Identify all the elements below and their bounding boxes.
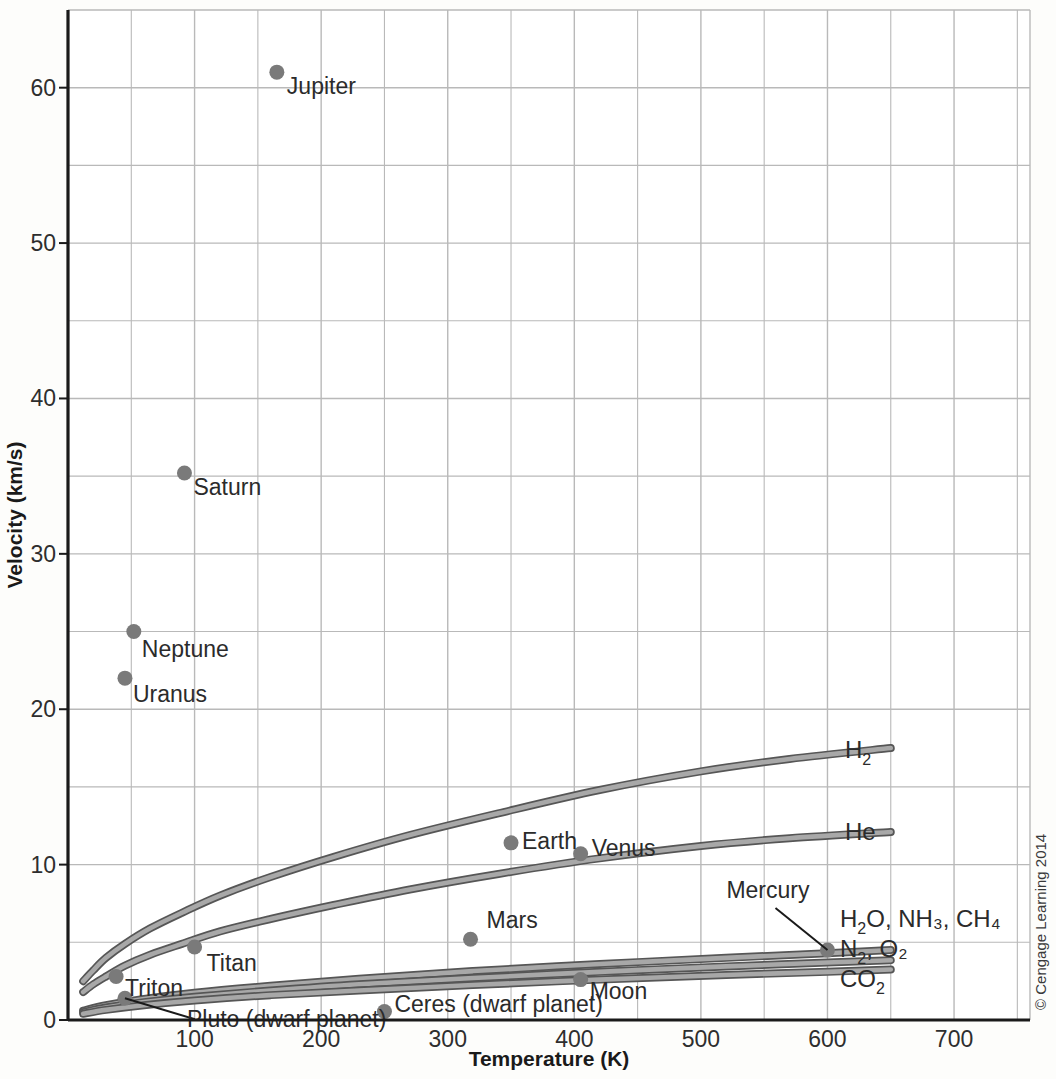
point-label-triton: Triton (125, 975, 183, 1001)
data-point-moon (573, 972, 588, 987)
data-point-uranus (117, 671, 132, 686)
copyright-credit: © Cengage Learning 2014 (1032, 834, 1049, 1010)
y-tick-label: 0 (43, 1007, 56, 1033)
x-tick-label: 700 (935, 1026, 973, 1052)
point-label-venus: Venus (592, 835, 656, 861)
data-point-triton (109, 969, 124, 984)
y-tick-label: 10 (30, 852, 56, 878)
velocity-temperature-chart: JupiterSaturnNeptuneUranusEarthVenusMars… (0, 0, 1056, 1079)
data-point-jupiter (269, 65, 284, 80)
point-label-ceres: Ceres (dwarf planet) (394, 991, 602, 1017)
x-tick-label: 600 (808, 1026, 846, 1052)
point-label-mars: Mars (487, 907, 538, 933)
y-tick-label: 40 (30, 385, 56, 411)
data-point-mars (463, 932, 478, 947)
y-tick-label: 30 (30, 541, 56, 567)
point-label-titan: Titan (207, 950, 257, 976)
curve-label-he: He (845, 818, 876, 845)
point-label-neptune: Neptune (142, 636, 229, 662)
point-label-mercury: Mercury (726, 877, 810, 903)
data-point-titan (187, 939, 202, 954)
x-tick-label: 200 (302, 1026, 340, 1052)
x-tick-label: 500 (682, 1026, 720, 1052)
x-axis-title: Temperature (K) (469, 1047, 630, 1070)
x-tick-label: 300 (429, 1026, 467, 1052)
y-axis-title: Velocity (km/s) (3, 441, 26, 588)
point-label-jupiter: Jupiter (287, 73, 356, 99)
point-label-saturn: Saturn (193, 474, 261, 500)
y-tick-label: 60 (30, 75, 56, 101)
figure-page: JupiterSaturnNeptuneUranusEarthVenusMars… (0, 0, 1056, 1079)
x-tick-label: 100 (175, 1026, 213, 1052)
data-point-saturn (177, 466, 192, 481)
data-point-neptune (126, 624, 141, 639)
data-point-earth (504, 835, 519, 850)
y-tick-label: 20 (30, 696, 56, 722)
point-label-earth: Earth (522, 828, 577, 854)
point-label-uranus: Uranus (133, 681, 207, 707)
y-tick-label: 50 (30, 230, 56, 256)
